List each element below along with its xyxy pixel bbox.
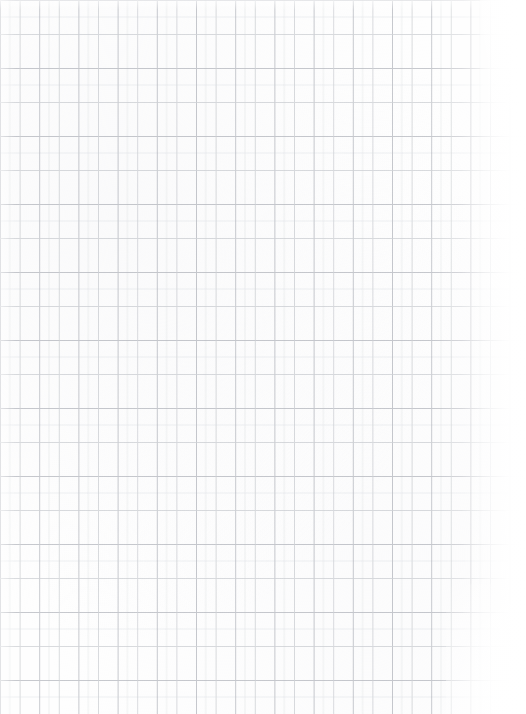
scanned-page bbox=[0, 0, 526, 714]
grid-pattern-layer bbox=[0, 0, 526, 714]
lattice-b-fill bbox=[0, 0, 526, 714]
lattice-group bbox=[0, 0, 526, 714]
